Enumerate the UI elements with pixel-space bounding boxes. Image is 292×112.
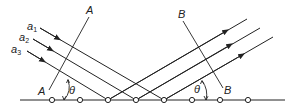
- label-a3: a3: [11, 43, 21, 56]
- label-theta-left: θ: [69, 84, 75, 96]
- label-A-bottom: A: [37, 85, 45, 97]
- diagram-canvas: a1 a2 a3 A A B B θ θ: [0, 0, 292, 112]
- label-A-top: A: [85, 4, 93, 16]
- label-B-top: B: [178, 8, 185, 20]
- ray-a1-incident: [40, 28, 164, 100]
- label-B-bottom: B: [224, 84, 231, 96]
- reflected-rays: [108, 19, 273, 100]
- label-theta-right: θ: [194, 83, 200, 95]
- incident-rays: [27, 28, 164, 100]
- label-a2: a2: [19, 31, 29, 44]
- angle-right: [201, 81, 209, 101]
- label-a1: a1: [27, 20, 37, 33]
- bragg-diagram: a1 a2 a3 A A B B θ θ: [0, 0, 292, 112]
